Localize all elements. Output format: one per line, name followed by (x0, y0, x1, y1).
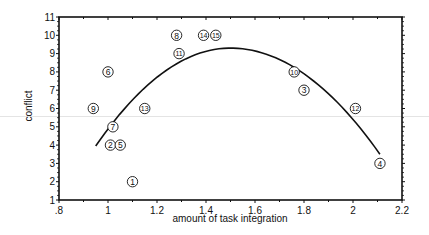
data-point-3: 3 (299, 85, 309, 95)
y-tick-label: 10 (44, 30, 56, 41)
x-tick-label: .8 (55, 205, 64, 216)
y-tick-label: 2 (49, 176, 55, 187)
fit-curve (96, 48, 380, 154)
data-point-15: 15 (211, 30, 221, 40)
data-point-8: 8 (171, 30, 181, 40)
data-point-label: 2 (108, 140, 113, 150)
data-point-label: 5 (118, 140, 123, 150)
y-tick-label: 7 (49, 85, 55, 96)
x-tick-label: 1.8 (297, 205, 311, 216)
y-tick-label: 1 (49, 195, 55, 206)
data-point-14: 14 (198, 30, 208, 40)
data-point-label: 1 (130, 177, 135, 187)
x-tick-label: 2.2 (395, 205, 409, 216)
data-point-label: 13 (141, 105, 149, 112)
data-point-13: 13 (140, 103, 150, 113)
data-point-4: 4 (375, 158, 385, 168)
scatter-chart: .811.21.41.61.822.2 1234567891011 123456… (0, 0, 429, 235)
data-point-10: 10 (289, 67, 299, 77)
y-tick-label: 3 (49, 158, 55, 169)
data-point-7: 7 (108, 122, 118, 132)
data-point-5: 5 (115, 140, 125, 150)
data-point-label: 3 (302, 85, 307, 95)
data-point-9: 9 (88, 103, 98, 113)
x-axis-ticks: .811.21.41.61.822.2 (55, 17, 410, 216)
x-tick-label: 2 (350, 205, 356, 216)
data-point-label: 9 (91, 104, 96, 114)
y-tick-label: 8 (49, 66, 55, 77)
data-points: 123456789101112131415 (88, 30, 385, 187)
data-point-11: 11 (174, 48, 184, 58)
data-point-label: 11 (175, 50, 182, 57)
data-point-label: 6 (106, 67, 111, 77)
data-point-label: 14 (200, 32, 208, 39)
data-point-label: 10 (290, 69, 298, 76)
y-tick-label: 4 (49, 140, 55, 151)
data-point-6: 6 (103, 67, 113, 77)
x-tick-label: 1.2 (150, 205, 164, 216)
y-tick-label: 5 (49, 121, 55, 132)
data-point-12: 12 (350, 103, 360, 113)
data-point-label: 7 (111, 122, 116, 132)
y-tick-label: 11 (45, 12, 56, 23)
data-point-label: 4 (378, 159, 383, 169)
data-point-label: 8 (174, 31, 179, 41)
x-axis-label: amount of task integration (172, 213, 287, 224)
data-point-2: 2 (105, 140, 115, 150)
y-tick-label: 6 (49, 103, 55, 114)
data-point-1: 1 (127, 177, 137, 187)
y-axis-label: conflict (23, 90, 34, 121)
y-tick-label: 9 (49, 48, 55, 59)
data-point-label: 12 (352, 105, 360, 112)
x-tick-label: 1 (105, 205, 111, 216)
data-point-label: 15 (212, 32, 220, 39)
